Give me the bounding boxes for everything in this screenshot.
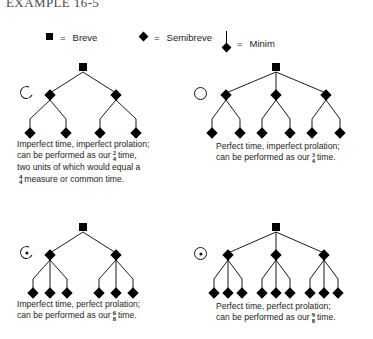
legend-equals: = (60, 32, 66, 43)
time-signature: 68 (113, 310, 116, 321)
legend-item-breve: = Breve (46, 31, 97, 42)
note-tree (0, 55, 186, 143)
caption-line: Imperfect time, imperfect prolation; (17, 139, 149, 150)
legend: = Breve = Semibreve = Minim (0, 27, 373, 53)
diagram-imperfect-time-imperfect-prolation: Imperfect time, imperfect prolation; can… (0, 55, 186, 195)
minim-notehead (221, 43, 231, 53)
time-signature: 34 (312, 152, 315, 163)
caption-line: Imperfect time, perfect prolation; (17, 299, 140, 310)
semibreve-icon (139, 32, 149, 42)
legend-item-semibreve: = Semibreve (140, 31, 212, 42)
breve-icon (46, 33, 53, 40)
caption-line: Perfect time, imperfect prolation; (216, 141, 340, 152)
mensuration-sign-c (20, 86, 33, 102)
caption-line: two units of which would equal a (17, 162, 149, 173)
legend-equals: = (237, 38, 243, 49)
semicircle-icon (20, 86, 33, 99)
circle-dot-icon (194, 247, 207, 260)
legend-label-breve: Breve (73, 32, 98, 43)
caption-line: Perfect time, perfect prolation; (216, 301, 336, 312)
legend-item-minim: = Minim (222, 31, 275, 53)
semicircle-dot-icon (20, 246, 33, 259)
minim-icon (222, 31, 230, 53)
caption-line: 44measure or common time. (17, 174, 149, 186)
caption-line: can be performed as our34time. (216, 152, 340, 164)
time-signature: 98 (312, 312, 315, 323)
example-figure: EXAMPLE 16-5 = Breve = Semibreve = Minim (0, 0, 373, 339)
caption-line: can be performed as our98time. (216, 312, 336, 324)
time-signature-alt: 44 (19, 174, 22, 185)
legend-label-semibreve: Semibreve (167, 32, 212, 43)
page-title: EXAMPLE 16-5 (6, 0, 99, 11)
caption: Perfect time, imperfect prolation; can b… (216, 141, 340, 164)
time-signature: 24 (113, 150, 116, 161)
caption: Imperfect time, imperfect prolation; can… (17, 139, 149, 185)
mensuration-sign-o (194, 87, 207, 103)
mensuration-sign-c-dotted (20, 246, 33, 262)
legend-label-minim: Minim (250, 38, 275, 49)
caption-line: can be performed as our24time, (17, 150, 149, 162)
caption-line: can be performed as our68time. (17, 310, 140, 322)
diagram-imperfect-time-perfect-prolation: Imperfect time, perfect prolation; can b… (0, 215, 186, 339)
circle-icon (194, 87, 207, 100)
note-tree (186, 215, 373, 303)
note-tree (186, 55, 373, 143)
diagram-perfect-time-imperfect-prolation: Perfect time, imperfect prolation; can b… (186, 55, 373, 195)
caption: Perfect time, perfect prolation; can be … (216, 301, 336, 324)
diagram-perfect-time-perfect-prolation: Perfect time, perfect prolation; can be … (186, 215, 373, 339)
caption: Imperfect time, perfect prolation; can b… (17, 299, 140, 322)
mensuration-sign-o-dotted (194, 247, 207, 263)
note-tree (0, 215, 186, 303)
legend-equals: = (154, 32, 160, 43)
